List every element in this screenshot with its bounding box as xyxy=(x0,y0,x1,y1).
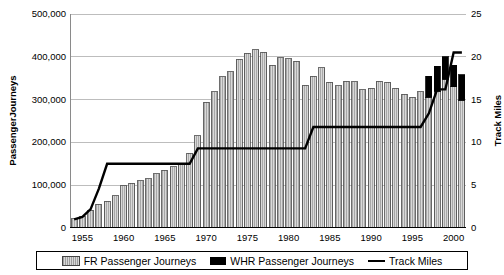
track-miles-line-swatch-icon xyxy=(368,260,385,262)
right-tick-label: 5 xyxy=(471,179,504,190)
legend-label-track-miles: Track Miles xyxy=(389,255,442,267)
legend-item-whr: WHR Passenger Journeys xyxy=(210,255,354,267)
x-tick-label: 1975 xyxy=(227,232,267,243)
left-tick-label: 300,000 xyxy=(8,94,66,105)
left-axis-title: PassengerJourneys xyxy=(7,73,18,169)
x-tick-label: 1965 xyxy=(145,232,185,243)
whr-swatch-icon xyxy=(210,257,226,265)
x-tick-label: 1970 xyxy=(186,232,226,243)
legend-label-whr: WHR Passenger Journeys xyxy=(230,255,354,267)
legend-item-track-miles: Track Miles xyxy=(368,255,442,267)
left-tick-label: 0 xyxy=(8,222,66,233)
fr-bars xyxy=(71,50,465,228)
x-tick-label: 1955 xyxy=(62,232,102,243)
right-tick-label: 10 xyxy=(471,136,504,147)
plot-area xyxy=(70,14,466,228)
right-axis-title: Track Miles xyxy=(492,73,503,169)
right-tick-label: 20 xyxy=(471,51,504,62)
legend-item-fr: FR Passenger Journeys xyxy=(62,255,197,267)
left-tick-label: 100,000 xyxy=(8,179,66,190)
chart-container: PassengerJourneys Track Miles 500,000400… xyxy=(0,0,504,275)
x-tick-label: 1985 xyxy=(310,232,350,243)
x-tick-label: 1980 xyxy=(269,232,309,243)
left-tick-label: 400,000 xyxy=(8,51,66,62)
chart-legend: FR Passenger Journeys WHR Passenger Jour… xyxy=(36,251,468,270)
fr-swatch-icon xyxy=(62,256,80,266)
left-tick-label: 500,000 xyxy=(8,8,66,19)
x-tick-label: 1990 xyxy=(351,232,391,243)
x-tick-label: 1960 xyxy=(104,232,144,243)
right-tick-label: 15 xyxy=(471,94,504,105)
right-tick-label: 0 xyxy=(471,222,504,233)
legend-label-fr: FR Passenger Journeys xyxy=(84,255,197,267)
left-tick-label: 200,000 xyxy=(8,136,66,147)
plot-svg xyxy=(70,14,466,228)
right-tick-label: 25 xyxy=(471,8,504,19)
x-tick-label: 2000 xyxy=(434,232,474,243)
x-tick-label: 1995 xyxy=(392,232,432,243)
